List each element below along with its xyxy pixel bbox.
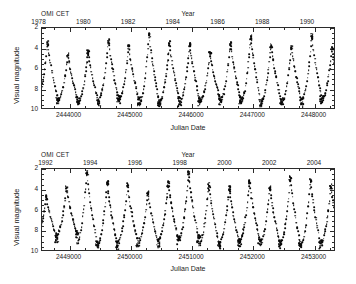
data-point: [182, 229, 184, 231]
data-point: [204, 92, 206, 94]
data-point: [80, 232, 82, 234]
data-point: [108, 192, 110, 194]
top-axis-title-top: Year: [181, 10, 194, 17]
data-point: [192, 66, 194, 68]
data-point: [196, 228, 198, 230]
data-point: [95, 236, 97, 238]
data-point: [50, 65, 52, 67]
x-minor-tick: [223, 248, 224, 250]
data-point: [264, 92, 266, 94]
data-point: [210, 57, 212, 59]
data-point: [71, 78, 73, 80]
data-point: [229, 192, 231, 194]
data-point: [253, 62, 255, 64]
data-point: [332, 48, 334, 50]
data-point: [159, 239, 161, 241]
data-point: [206, 205, 208, 207]
data-point: [94, 86, 96, 88]
data-point: [61, 90, 63, 92]
data-point: [207, 67, 209, 69]
data-point: [193, 212, 195, 214]
data-point: [225, 80, 227, 82]
data-point: [60, 94, 62, 96]
x-axis-tick-label: 2448000: [301, 112, 326, 119]
data-point: [63, 205, 65, 207]
data-point: [243, 95, 245, 97]
data-point: [104, 206, 106, 208]
data-point: [306, 80, 308, 82]
x-minor-tick: [223, 106, 224, 108]
data-point: [223, 93, 225, 95]
data-point: [156, 244, 158, 246]
data-point: [313, 54, 315, 56]
data-point: [111, 63, 113, 65]
data-point: [247, 71, 249, 73]
data-point: [184, 83, 186, 85]
data-point: [293, 59, 295, 61]
data-point: [183, 89, 185, 91]
data-point: [66, 191, 68, 193]
data-point: [63, 82, 65, 84]
data-point: [180, 236, 182, 238]
data-point: [90, 71, 92, 73]
year-tick-label: 1988: [255, 18, 269, 25]
data-point: [149, 33, 151, 35]
y-major-tick-right: [330, 169, 334, 170]
data-point: [332, 53, 334, 55]
data-point: [252, 202, 254, 204]
data-point: [317, 229, 319, 231]
data-point: [185, 202, 187, 204]
data-point: [315, 64, 317, 66]
data-point: [68, 62, 70, 64]
data-point: [88, 193, 90, 195]
data-point: [242, 233, 244, 235]
data-point: [163, 222, 165, 224]
data-point: [175, 82, 177, 84]
x-minor-tick: [85, 248, 86, 250]
data-point: [307, 73, 309, 75]
data-point: [146, 195, 148, 197]
data-point: [229, 185, 231, 187]
data-point: [70, 207, 72, 209]
data-point: [153, 223, 155, 225]
x-minor-tick-top: [223, 169, 224, 171]
data-point: [265, 84, 267, 86]
data-point: [201, 239, 203, 241]
data-point: [163, 90, 165, 92]
data-point: [142, 226, 144, 228]
data-point: [251, 48, 253, 50]
data-point: [83, 87, 85, 89]
data-point: [129, 201, 131, 203]
data-point: [79, 236, 81, 238]
year-tick-label: 1984: [166, 18, 180, 25]
data-point: [264, 95, 266, 97]
data-point: [119, 237, 121, 239]
data-point: [197, 235, 199, 237]
data-point: [245, 85, 247, 87]
data-point: [107, 183, 109, 185]
series-label-top: OMI CET: [41, 10, 69, 17]
data-point: [210, 60, 212, 62]
data-point: [123, 83, 125, 85]
data-point: [329, 200, 331, 202]
y-minor-tick-right: [332, 221, 334, 222]
data-point: [190, 52, 192, 54]
data-point: [279, 95, 281, 97]
y-minor-tick: [42, 43, 44, 44]
data-point: [192, 62, 194, 64]
data-point: [208, 187, 210, 189]
data-point: [119, 238, 121, 240]
data-point: [268, 199, 270, 201]
data-point: [279, 247, 281, 249]
data-point: [281, 243, 283, 245]
y-minor-tick-right: [332, 236, 334, 237]
x-minor-tick-top: [100, 28, 101, 30]
data-point: [212, 69, 214, 71]
data-point: [255, 76, 257, 78]
data-point: [122, 227, 124, 229]
x-axis-tick-label: 2450000: [117, 254, 142, 261]
year-tick-label: 2004: [307, 159, 321, 166]
data-point: [143, 85, 145, 87]
data-point: [254, 69, 256, 71]
data-point: [312, 37, 314, 39]
